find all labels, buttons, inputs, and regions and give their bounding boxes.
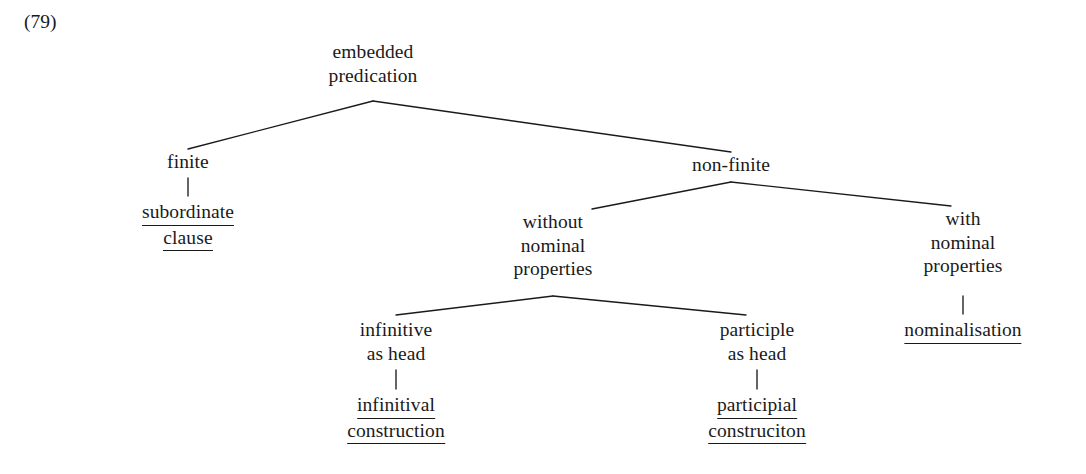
node-line-wrap: construciton bbox=[708, 419, 806, 445]
node-line-wrap: nominalisation bbox=[904, 318, 1021, 344]
node-line: finite bbox=[167, 150, 209, 174]
node-finite: finite bbox=[167, 150, 209, 174]
node-participial-construction: participial construciton bbox=[708, 393, 806, 444]
example-number-label: (79) bbox=[24, 10, 57, 34]
node-line: properties bbox=[924, 254, 1003, 278]
node-line: as head bbox=[360, 342, 433, 366]
node-subordinate-clause: subordinate clause bbox=[142, 200, 234, 251]
node-line: nominal bbox=[514, 234, 593, 258]
node-line-wrap: infinitival bbox=[347, 393, 445, 419]
node-participle-as-head: participle as head bbox=[720, 318, 795, 365]
node-embedded-predication: embedded predication bbox=[329, 40, 418, 87]
edge-root-to-non-finite bbox=[373, 101, 731, 152]
node-line: without bbox=[514, 210, 593, 234]
node-line: properties bbox=[514, 257, 593, 281]
node-line: nominalisation bbox=[904, 318, 1021, 344]
edge-non-finite-to-without bbox=[592, 182, 731, 209]
edge-non-finite-to-with bbox=[731, 182, 951, 206]
node-line: participle bbox=[720, 318, 795, 342]
node-non-finite: non-finite bbox=[692, 153, 770, 177]
node-line: predication bbox=[329, 64, 418, 88]
node-line: participial bbox=[717, 393, 797, 419]
node-line: subordinate bbox=[142, 200, 234, 226]
node-line: with bbox=[924, 207, 1003, 231]
figure-canvas: (79) embedded predication fin bbox=[0, 0, 1086, 474]
node-line-wrap: construction bbox=[347, 419, 445, 445]
node-infinitive-as-head: infinitive as head bbox=[360, 318, 433, 365]
node-nominalisation: nominalisation bbox=[904, 318, 1021, 344]
node-line: as head bbox=[720, 342, 795, 366]
node-line: clause bbox=[163, 226, 212, 252]
node-line: construction bbox=[347, 419, 445, 445]
node-line-wrap: participial bbox=[708, 393, 806, 419]
edge-without-to-participle bbox=[553, 296, 746, 315]
node-line: construciton bbox=[708, 419, 806, 445]
node-infinitival-construction: infinitival construction bbox=[347, 393, 445, 444]
node-without-nominal-properties: without nominal properties bbox=[514, 210, 593, 281]
node-with-nominal-properties: with nominal properties bbox=[924, 207, 1003, 278]
edge-without-to-infinitive bbox=[396, 296, 553, 315]
node-line: nominal bbox=[924, 231, 1003, 255]
node-line: embedded bbox=[329, 40, 418, 64]
node-line-wrap: subordinate bbox=[142, 200, 234, 226]
edge-root-to-finite bbox=[188, 101, 373, 149]
node-line-wrap: clause bbox=[142, 226, 234, 252]
node-line: infinitival bbox=[357, 393, 435, 419]
node-line: non-finite bbox=[692, 153, 770, 177]
node-line: infinitive bbox=[360, 318, 433, 342]
